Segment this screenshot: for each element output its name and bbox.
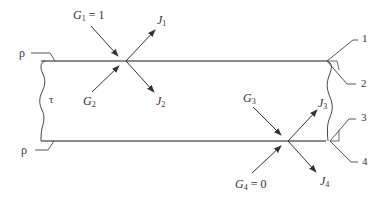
g3-arrow [253,107,281,135]
g1-symbol: G [73,8,82,22]
j1-arrow [126,30,155,61]
j2-arrow [126,61,154,92]
j3-sub: 3 [323,102,327,111]
surface-3-label: 3 [361,112,367,123]
rho-bottom-leader [35,141,54,150]
surface-1-label: 1 [362,33,368,44]
g2-arrow [92,66,119,92]
g3-symbol: G [243,91,252,105]
g2-label: G2 [83,95,96,109]
rho-top-label: ρ [19,47,25,59]
left-break-edge [40,61,45,141]
g4-symbol: G [235,177,244,191]
surface-1-leader [327,40,358,61]
j4-label: J4 [320,175,329,189]
j2-sub: 2 [161,100,165,109]
g4-label: G4 = 0 [235,178,266,192]
rho-bottom-label: ρ [21,144,27,156]
diagram-canvas: ρ ρ τ 1 2 3 4 G1 = 1 J1 G2 J2 G3 J3 G4 =… [0,0,382,201]
g1-value: = 1 [86,8,105,22]
g1-label: G1 = 1 [73,9,104,23]
surface-2-label: 2 [361,78,367,89]
surface-4-leader [330,141,358,162]
g4-arrow [252,146,281,173]
g1-arrow [91,26,118,56]
right-break-edge [327,61,332,141]
j3-label: J3 [318,97,327,111]
tau-label: τ [49,94,53,105]
j1-sub: 1 [162,19,166,28]
g3-label: G3 [243,92,256,106]
j1-label: J1 [157,14,166,28]
rho-top-leader [31,53,55,61]
g3-sub: 3 [252,97,256,106]
g2-sub: 2 [92,100,96,109]
j3-arrow [288,110,317,141]
surface-4-label: 4 [362,156,368,167]
j2-label: J2 [156,95,165,109]
j4-arrow [288,141,316,172]
g4-value: = 0 [248,177,267,191]
surface-3-leader [330,119,356,141]
g2-symbol: G [83,94,92,108]
j4-sub: 4 [325,180,329,189]
